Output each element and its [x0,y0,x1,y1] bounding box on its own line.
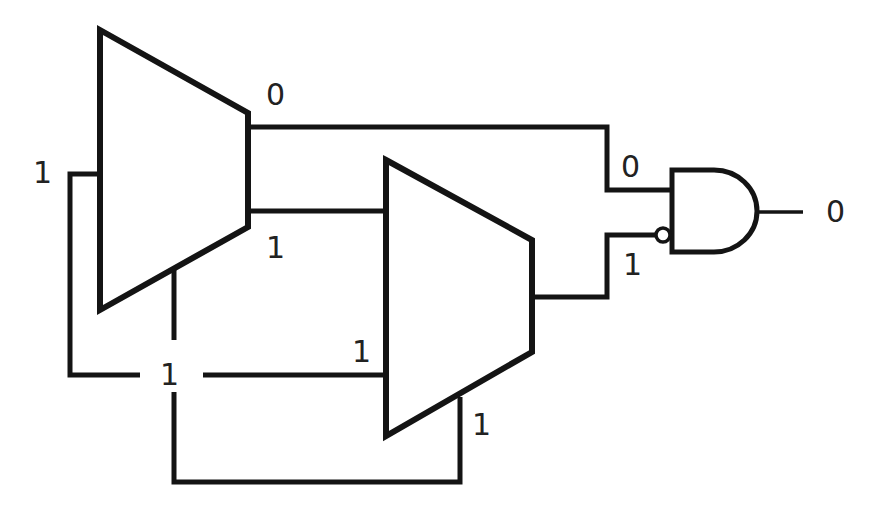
label-mux2-select-side: 1 [352,334,371,369]
mux1 [100,30,248,310]
label-and-in-top: 0 [621,149,640,184]
circuit-diagram: 0 1 1 1 1 1 0 1 0 [0,0,871,519]
wire-mux1-top-to-and [248,127,672,190]
and-gate [672,170,757,252]
mux2 [386,160,532,436]
label-mux1-select: 1 [33,155,52,190]
label-mux1-out-bottom: 1 [266,230,285,265]
label-feedback-cross: 1 [160,357,179,392]
label-and-out: 0 [826,194,845,229]
label-mux2-bottom: 1 [472,407,491,442]
label-mux1-out-top: 0 [266,77,285,112]
inverter-bubble [656,228,670,242]
label-and-in-bottom: 1 [623,247,642,282]
